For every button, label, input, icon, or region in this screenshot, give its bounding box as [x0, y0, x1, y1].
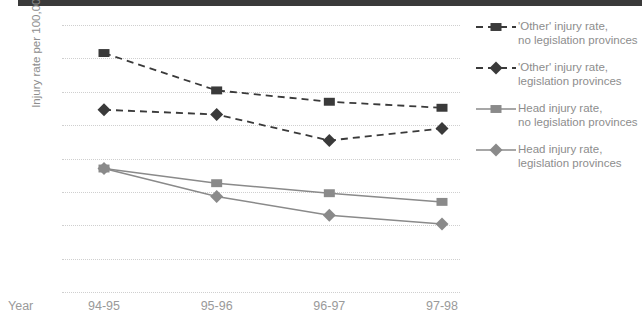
legend-item-0: 'Other' injury rate, no legislation prov…	[474, 18, 642, 47]
series-line	[104, 169, 442, 202]
series-line	[104, 110, 442, 141]
series-line	[104, 169, 442, 224]
data-point-marker	[98, 162, 111, 175]
data-point-marker	[437, 104, 448, 112]
legend-item-2: Head injury rate, no legislation provinc…	[474, 100, 642, 129]
series-line	[104, 53, 442, 108]
data-point-marker	[211, 179, 222, 187]
data-point-marker	[210, 190, 223, 203]
chart-legend: 'Other' injury rate, no legislation prov…	[474, 18, 642, 182]
data-point-marker	[436, 217, 449, 230]
series-1	[98, 103, 449, 147]
top-rule-divider	[18, 0, 642, 6]
series-2	[99, 165, 448, 206]
data-point-marker	[323, 134, 336, 147]
chart-figure: Injury rate per 100,000 0510152025303540…	[0, 0, 642, 321]
legend-item-3: Head injury rate, legislation provinces	[474, 141, 642, 170]
data-point-marker	[210, 108, 223, 121]
legend-item-label: Head injury rate, no legislation provinc…	[518, 100, 638, 129]
legend-item-label: Head injury rate, legislation provinces	[518, 141, 622, 170]
x-axis-tick-label: 94-95	[88, 299, 120, 313]
x-axis-title: Year	[8, 299, 33, 313]
series-3	[98, 162, 449, 230]
x-axis-tick-label: 96-97	[313, 299, 345, 313]
legend-key-icon	[474, 59, 518, 87]
y-axis-title: Injury rate per 100,000	[30, 0, 42, 130]
data-point-marker	[436, 122, 449, 135]
data-series-group	[62, 25, 460, 292]
data-point-marker	[323, 209, 336, 222]
data-point-marker	[98, 103, 111, 116]
data-point-marker	[324, 189, 335, 197]
legend-key-icon	[474, 141, 518, 169]
legend-key-icon	[474, 100, 518, 128]
x-axis-tick-label: 97-98	[426, 299, 458, 313]
data-point-marker	[211, 86, 222, 94]
gridline	[62, 292, 460, 293]
legend-item-label: 'Other' injury rate, no legislation prov…	[518, 18, 638, 47]
data-point-marker	[324, 98, 335, 106]
plot-area: 0510152025303540 94-9595-9696-9797-98	[62, 25, 460, 292]
x-axis-tick-label: 95-96	[201, 299, 233, 313]
data-point-marker	[99, 49, 110, 57]
legend-key-icon	[474, 18, 518, 46]
legend-item-label: 'Other' injury rate, legislation provinc…	[518, 59, 622, 88]
legend-item-1: 'Other' injury rate, legislation provinc…	[474, 59, 642, 88]
series-0	[99, 49, 448, 112]
data-point-marker	[437, 198, 448, 206]
